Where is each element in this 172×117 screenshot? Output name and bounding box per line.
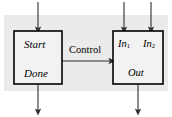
datapath-in2-base: In — [143, 38, 152, 49]
diagram-canvas: Start Done Control In1 In2 Out — [0, 0, 172, 117]
datapath-in2-label: In2 — [143, 39, 155, 50]
control-connection-label: Control — [69, 45, 101, 56]
controller-done-label: Done — [24, 68, 48, 79]
controller-start-label: Start — [24, 39, 45, 50]
diagram-svg — [0, 0, 172, 117]
datapath-in1-base: In — [118, 38, 127, 49]
datapath-in2-subscript: 2 — [152, 42, 155, 49]
datapath-in1-label: In1 — [118, 39, 130, 50]
datapath-out-label: Out — [128, 68, 144, 79]
datapath-in1-subscript: 1 — [127, 42, 130, 49]
